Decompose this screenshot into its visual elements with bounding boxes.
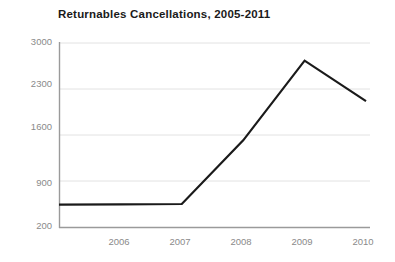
chart-container: Returnables Cancellations, 2005-2011 300…	[0, 0, 395, 262]
gridlines	[59, 43, 370, 181]
x-axis-tick-2009: 2009	[280, 236, 324, 247]
line-chart-plot	[0, 0, 395, 262]
x-axis-tick-2008: 2008	[219, 236, 263, 247]
x-axis-tick-2006: 2006	[97, 236, 141, 247]
y-tick-label: 1600	[4, 121, 52, 132]
x-axis-tick-2010: 2010	[341, 236, 385, 247]
y-tick-label: 2300	[4, 78, 52, 89]
x-axis-tick-2007: 2007	[158, 236, 202, 247]
y-tick-label: 3000	[4, 36, 52, 47]
y-tick-label: 200	[4, 220, 52, 231]
data-series-line	[59, 61, 366, 205]
y-tick-label: 900	[4, 177, 52, 188]
